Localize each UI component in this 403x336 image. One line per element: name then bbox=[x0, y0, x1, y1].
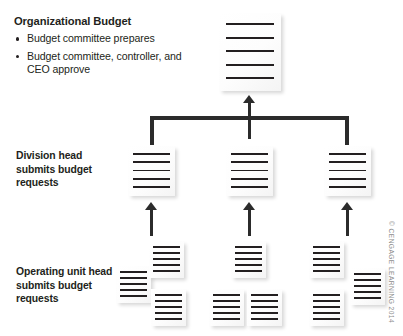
document-line bbox=[120, 289, 147, 291]
upward-arrow-to-division-3-head bbox=[341, 202, 353, 210]
document-line bbox=[235, 264, 262, 266]
document-line bbox=[155, 306, 182, 308]
document-line bbox=[235, 270, 262, 272]
document-line bbox=[313, 246, 340, 248]
bracket-right-drop bbox=[345, 116, 349, 145]
upward-arrow-to-organizational-budget-shaft bbox=[248, 103, 252, 139]
document-line bbox=[231, 186, 268, 188]
operating-document-3 bbox=[151, 289, 186, 326]
division-head-label: Division head submits budget requests bbox=[16, 149, 116, 190]
document-line bbox=[133, 178, 170, 180]
document-line bbox=[155, 312, 182, 314]
document-line bbox=[354, 291, 381, 293]
organizational-budget-document bbox=[219, 13, 281, 91]
document-line bbox=[251, 306, 278, 308]
document-line bbox=[213, 318, 240, 320]
bracket-horizontal-bar bbox=[150, 116, 349, 120]
document-line bbox=[120, 295, 147, 297]
document-line bbox=[251, 300, 278, 302]
document-line bbox=[329, 153, 366, 155]
division-document-2 bbox=[226, 146, 273, 196]
document-line bbox=[329, 161, 366, 163]
operating-document-5 bbox=[209, 289, 244, 326]
document-line bbox=[313, 264, 340, 266]
document-line bbox=[354, 285, 381, 287]
document-line bbox=[133, 161, 170, 163]
document-line bbox=[235, 252, 262, 254]
document-line bbox=[153, 252, 180, 254]
upward-arrow-to-division-3-shaft bbox=[346, 210, 350, 236]
document-line bbox=[231, 153, 268, 155]
upward-arrow-to-division-1-head bbox=[145, 202, 157, 210]
operating-document-8 bbox=[350, 268, 385, 305]
document-line bbox=[226, 23, 274, 25]
operating-document-9 bbox=[309, 289, 344, 326]
document-line bbox=[226, 50, 274, 52]
operating-unit-label-block: Operating unit head submits budget reque… bbox=[16, 265, 121, 306]
document-line bbox=[251, 318, 278, 320]
document-line bbox=[313, 252, 340, 254]
document-line bbox=[153, 270, 180, 272]
organizational-budget-bullets: Budget committee prepares Budget committ… bbox=[14, 32, 204, 76]
document-line bbox=[155, 318, 182, 320]
document-line bbox=[313, 318, 340, 320]
document-line bbox=[354, 279, 381, 281]
document-line bbox=[133, 170, 170, 172]
document-line bbox=[329, 170, 366, 172]
copyright-credit: © CENGAGE LEARNING 2014 bbox=[388, 221, 395, 323]
document-line bbox=[155, 300, 182, 302]
document-line bbox=[231, 161, 268, 163]
upward-arrow-to-organizational-budget-head bbox=[243, 95, 255, 103]
document-line bbox=[313, 270, 340, 272]
document-line bbox=[213, 312, 240, 314]
organizational-budget-text-block: Organizational Budget Budget committee p… bbox=[14, 14, 204, 80]
document-line bbox=[153, 246, 180, 248]
document-line bbox=[120, 277, 147, 279]
operating-document-1 bbox=[116, 266, 151, 303]
document-line bbox=[155, 294, 182, 296]
document-line bbox=[329, 178, 366, 180]
document-line bbox=[213, 306, 240, 308]
operating-unit-label: Operating unit head submits budget reque… bbox=[16, 265, 121, 306]
document-line bbox=[329, 186, 366, 188]
document-line bbox=[251, 294, 278, 296]
upward-arrow-to-division-1-shaft bbox=[150, 210, 154, 236]
document-line bbox=[153, 264, 180, 266]
division-document-3 bbox=[324, 146, 371, 196]
organizational-budget-flow-diagram: Organizational Budget Budget committee p… bbox=[0, 0, 403, 336]
document-line bbox=[226, 77, 274, 79]
document-line bbox=[235, 246, 262, 248]
operating-document-7 bbox=[309, 241, 344, 278]
division-document-1 bbox=[128, 146, 175, 196]
document-line bbox=[354, 273, 381, 275]
upward-arrow-to-division-2-head bbox=[243, 202, 255, 210]
document-line bbox=[231, 170, 268, 172]
document-line bbox=[313, 258, 340, 260]
document-line bbox=[120, 271, 147, 273]
bracket-left-drop bbox=[150, 116, 154, 145]
list-item: Budget committee, controller, and CEO ap… bbox=[14, 50, 204, 76]
document-line bbox=[153, 258, 180, 260]
upward-arrow-to-division-2-shaft bbox=[248, 210, 252, 236]
document-line bbox=[133, 186, 170, 188]
document-line bbox=[354, 297, 381, 299]
operating-document-2 bbox=[149, 241, 184, 278]
list-item: Budget committee prepares bbox=[14, 32, 204, 45]
document-line bbox=[231, 178, 268, 180]
document-line bbox=[235, 258, 262, 260]
page-title: Organizational Budget bbox=[14, 14, 204, 28]
document-line bbox=[226, 64, 274, 66]
document-line bbox=[133, 153, 170, 155]
operating-document-4 bbox=[231, 241, 266, 278]
document-line bbox=[213, 300, 240, 302]
division-head-label-block: Division head submits budget requests bbox=[16, 149, 116, 190]
document-line bbox=[313, 300, 340, 302]
operating-document-6 bbox=[247, 289, 282, 326]
document-line bbox=[226, 37, 274, 39]
document-line bbox=[213, 294, 240, 296]
document-line bbox=[313, 312, 340, 314]
document-line bbox=[120, 283, 147, 285]
document-line bbox=[251, 312, 278, 314]
document-line bbox=[313, 306, 340, 308]
document-line bbox=[313, 294, 340, 296]
